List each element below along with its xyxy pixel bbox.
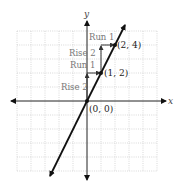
x-axis-label: x (168, 96, 173, 106)
point-1-2 (99, 71, 103, 75)
rise-label-2: Rise 2 (69, 48, 96, 58)
slope-graph: x y (0, 0) (1, 2) (2, 4) Rise 2 Run 1 Ri… (0, 0, 181, 182)
point-origin (85, 99, 89, 103)
point-label-origin: (0, 0) (89, 104, 113, 114)
point-label-1-2: (1, 2) (104, 68, 128, 78)
run-label-2: Run 1 (89, 32, 114, 42)
y-axis-label: y (83, 9, 90, 19)
point-label-2-4: (2, 4) (117, 40, 141, 50)
rise-label-1: Rise 2 (61, 82, 88, 92)
line-y-equals-2x-neg (50, 101, 87, 176)
run-label-1: Run 1 (70, 60, 95, 70)
